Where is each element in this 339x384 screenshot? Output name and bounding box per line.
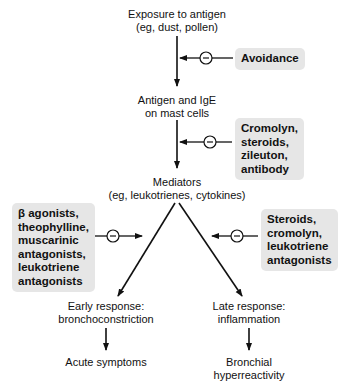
inhibitor-mast-line: Cromolyn, <box>241 122 298 136</box>
inhibitor-early-line: antagonists <box>18 275 89 289</box>
inhibitor-late-line: leukotriene <box>267 240 332 254</box>
node-early-line1: Early response: <box>58 300 153 313</box>
inhibitor-mast-line: steroids, <box>241 136 298 150</box>
inhibitor-early-line: leukotriene <box>18 261 89 275</box>
inhibitor-late-line: antagonists <box>267 254 332 268</box>
inhibitor-mast-line: antibody <box>241 163 298 177</box>
inhibitor-mast-line: zileuton, <box>241 149 298 163</box>
node-exposure: Exposure to antigen (eg, dust, pollen) <box>128 8 226 34</box>
node-antigen-ige: Antigen and IgE on mast cells <box>138 94 216 120</box>
inhibitor-avoidance-text: Avoidance <box>241 52 299 66</box>
node-early-response: Early response: bronchoconstriction <box>58 300 153 326</box>
node-late-line1: Late response: <box>213 300 286 313</box>
node-antigen-ige-line1: Antigen and IgE <box>138 94 216 107</box>
inhibitor-early-line: antagonists, <box>18 248 89 262</box>
node-exposure-line2: (eg, dust, pollen) <box>128 21 226 34</box>
node-bronchial-line2: hyperreactivity <box>214 369 285 382</box>
node-exposure-line1: Exposure to antigen <box>128 8 226 21</box>
node-late-response: Late response: inflammation <box>213 300 286 326</box>
inhibitor-early-line: muscarinic <box>18 234 89 248</box>
node-antigen-ige-line2: on mast cells <box>138 107 216 120</box>
node-early-line2: bronchoconstriction <box>58 313 153 326</box>
node-mediators: Mediators (eg, leukotrienes, cytokines) <box>109 176 246 202</box>
node-late-line2: inflammation <box>213 313 286 326</box>
node-acute-symptoms: Acute symptoms <box>65 356 146 369</box>
node-bronchial-line1: Bronchial <box>214 356 285 369</box>
inhibitor-box-avoidance: Avoidance <box>235 48 305 70</box>
node-mediators-line2: (eg, leukotrienes, cytokines) <box>109 189 246 202</box>
node-acute-line1: Acute symptoms <box>65 356 146 369</box>
inhibitor-box-late: Steroids, cromolyn, leukotriene antagoni… <box>261 209 338 271</box>
inhibitor-early-line: β agonists, <box>18 207 89 221</box>
node-bronchial-hyperreactivity: Bronchial hyperreactivity <box>214 356 285 382</box>
inhibitor-late-line: Steroids, <box>267 213 332 227</box>
node-mediators-line1: Mediators <box>109 176 246 189</box>
inhibitor-early-line: theophylline, <box>18 221 89 235</box>
inhibitor-box-early: β agonists, theophylline, muscarinic ant… <box>12 203 95 292</box>
inhibitor-box-mast-cell: Cromolyn, steroids, zileuton, antibody <box>235 118 304 180</box>
inhibitor-late-line: cromolyn, <box>267 227 332 241</box>
